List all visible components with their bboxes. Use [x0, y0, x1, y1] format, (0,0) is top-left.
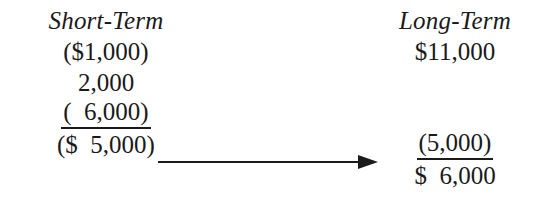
short-term-heading: Short-Term — [6, 6, 206, 36]
netting-arrow-icon — [158, 152, 380, 172]
long-term-net-total: $ 6,000 — [360, 160, 535, 191]
short-term-amount-3-wrap: ( 6,000) — [6, 98, 206, 129]
short-term-amount-1: ($1,000) — [6, 36, 206, 67]
long-term-transferred-amount: (5,000) — [417, 129, 494, 160]
netting-arrow — [158, 152, 380, 172]
short-term-amount-2: 2,000 — [6, 67, 206, 98]
short-term-amount-3: ( 6,000) — [61, 98, 150, 129]
long-term-blank-rows — [360, 67, 535, 129]
long-term-heading: Long-Term — [360, 6, 535, 36]
long-term-amount-1: $11,000 — [360, 36, 535, 67]
capital-gain-loss-netting-figure: Short-Term ($1,000) 2,000 ( 6,000) ($ 5,… — [0, 0, 535, 214]
short-term-column: Short-Term ($1,000) 2,000 ( 6,000) ($ 5,… — [6, 6, 206, 160]
long-term-transferred-wrap: (5,000) — [360, 129, 535, 160]
long-term-column: Long-Term $11,000 (5,000) $ 6,000 — [360, 6, 535, 191]
